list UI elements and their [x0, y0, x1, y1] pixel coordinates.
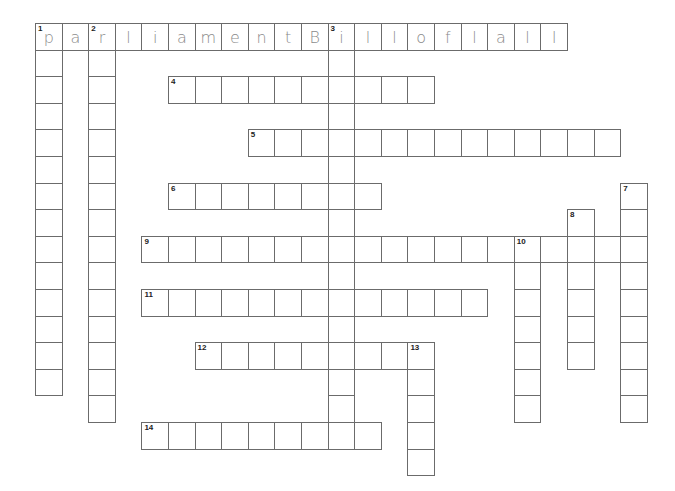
crossword-cell[interactable]: [221, 76, 249, 104]
crossword-cell[interactable]: 10: [514, 236, 542, 264]
crossword-cell[interactable]: [461, 236, 489, 264]
crossword-cell[interactable]: l: [461, 23, 489, 51]
crossword-cell[interactable]: [461, 129, 489, 157]
crossword-cell[interactable]: [354, 289, 382, 317]
crossword-cell[interactable]: [620, 316, 648, 344]
crossword-cell[interactable]: [274, 236, 302, 264]
crossword-cell[interactable]: [620, 236, 648, 264]
crossword-cell[interactable]: [620, 289, 648, 317]
crossword-cell[interactable]: [328, 209, 356, 237]
crossword-cell[interactable]: [35, 209, 63, 237]
crossword-cell[interactable]: [88, 395, 116, 423]
crossword-cell[interactable]: l: [540, 23, 568, 51]
crossword-cell[interactable]: [274, 422, 302, 450]
crossword-cell[interactable]: 2r: [88, 23, 116, 51]
crossword-cell[interactable]: [381, 289, 409, 317]
crossword-cell[interactable]: [168, 422, 196, 450]
crossword-cell[interactable]: [35, 103, 63, 131]
crossword-cell[interactable]: [354, 129, 382, 157]
crossword-cell[interactable]: [328, 369, 356, 397]
crossword-cell[interactable]: B: [301, 23, 329, 51]
crossword-cell[interactable]: [487, 236, 515, 264]
crossword-cell[interactable]: 14: [141, 422, 169, 450]
crossword-cell[interactable]: [35, 289, 63, 317]
crossword-cell[interactable]: [35, 316, 63, 344]
crossword-cell[interactable]: [88, 183, 116, 211]
crossword-cell[interactable]: 4: [168, 76, 196, 104]
crossword-cell[interactable]: [594, 129, 622, 157]
crossword-cell[interactable]: [567, 236, 595, 264]
crossword-cell[interactable]: [328, 156, 356, 184]
crossword-cell[interactable]: [195, 183, 223, 211]
crossword-cell[interactable]: i: [141, 23, 169, 51]
crossword-cell[interactable]: [354, 422, 382, 450]
crossword-cell[interactable]: [461, 289, 489, 317]
crossword-cell[interactable]: [514, 395, 542, 423]
crossword-cell[interactable]: [567, 342, 595, 370]
crossword-cell[interactable]: [168, 236, 196, 264]
crossword-cell[interactable]: [514, 289, 542, 317]
crossword-cell[interactable]: [248, 76, 276, 104]
crossword-cell[interactable]: [381, 342, 409, 370]
crossword-cell[interactable]: 1p: [35, 23, 63, 51]
crossword-cell[interactable]: 11: [141, 289, 169, 317]
crossword-cell[interactable]: [88, 103, 116, 131]
crossword-cell[interactable]: [35, 156, 63, 184]
crossword-cell[interactable]: [328, 262, 356, 290]
crossword-cell[interactable]: [381, 236, 409, 264]
crossword-cell[interactable]: 12: [195, 342, 223, 370]
crossword-cell[interactable]: [407, 289, 435, 317]
crossword-cell[interactable]: 3i: [328, 23, 356, 51]
crossword-cell[interactable]: o: [407, 23, 435, 51]
crossword-cell[interactable]: [168, 289, 196, 317]
crossword-cell[interactable]: [35, 236, 63, 264]
crossword-cell[interactable]: [567, 262, 595, 290]
crossword-cell[interactable]: [221, 342, 249, 370]
crossword-cell[interactable]: [195, 236, 223, 264]
crossword-cell[interactable]: [301, 183, 329, 211]
crossword-cell[interactable]: [88, 369, 116, 397]
crossword-cell[interactable]: [487, 129, 515, 157]
crossword-cell[interactable]: [407, 236, 435, 264]
crossword-cell[interactable]: [35, 183, 63, 211]
crossword-cell[interactable]: [434, 289, 462, 317]
crossword-cell[interactable]: [195, 289, 223, 317]
crossword-cell[interactable]: [221, 422, 249, 450]
crossword-cell[interactable]: [274, 183, 302, 211]
crossword-cell[interactable]: [620, 369, 648, 397]
crossword-cell[interactable]: [328, 342, 356, 370]
crossword-cell[interactable]: l: [381, 23, 409, 51]
crossword-cell[interactable]: [328, 183, 356, 211]
crossword-cell[interactable]: [221, 289, 249, 317]
crossword-cell[interactable]: [301, 422, 329, 450]
crossword-cell[interactable]: [407, 395, 435, 423]
crossword-cell[interactable]: [620, 395, 648, 423]
crossword-cell[interactable]: [407, 129, 435, 157]
crossword-cell[interactable]: e: [221, 23, 249, 51]
crossword-cell[interactable]: [88, 129, 116, 157]
crossword-cell[interactable]: [328, 50, 356, 78]
crossword-cell[interactable]: [434, 236, 462, 264]
crossword-cell[interactable]: [540, 236, 568, 264]
crossword-cell[interactable]: [35, 262, 63, 290]
crossword-cell[interactable]: [88, 289, 116, 317]
crossword-cell[interactable]: [328, 129, 356, 157]
crossword-cell[interactable]: [328, 103, 356, 131]
crossword-cell[interactable]: [620, 262, 648, 290]
crossword-cell[interactable]: 9: [141, 236, 169, 264]
crossword-cell[interactable]: [35, 129, 63, 157]
crossword-cell[interactable]: [354, 236, 382, 264]
crossword-cell[interactable]: a: [62, 23, 90, 51]
crossword-cell[interactable]: n: [248, 23, 276, 51]
crossword-cell[interactable]: a: [487, 23, 515, 51]
crossword-cell[interactable]: [328, 316, 356, 344]
crossword-cell[interactable]: [35, 76, 63, 104]
crossword-cell[interactable]: [88, 236, 116, 264]
crossword-cell[interactable]: [407, 369, 435, 397]
crossword-cell[interactable]: [514, 129, 542, 157]
crossword-cell[interactable]: [301, 342, 329, 370]
crossword-cell[interactable]: [514, 316, 542, 344]
crossword-cell[interactable]: [248, 289, 276, 317]
crossword-cell[interactable]: [407, 422, 435, 450]
crossword-cell[interactable]: t: [274, 23, 302, 51]
